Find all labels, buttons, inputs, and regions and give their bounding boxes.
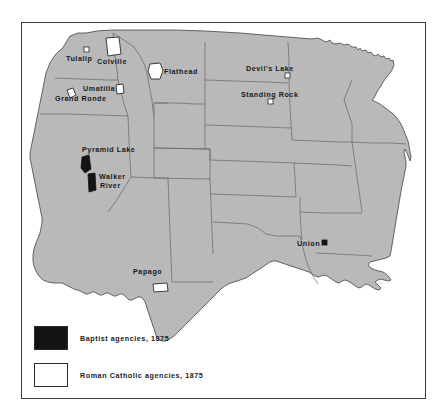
legend-swatch-baptist <box>34 326 68 350</box>
legend-label-catholic: Roman Catholic agencies, 1875 <box>80 371 203 380</box>
label-tulalip: Tulalip <box>66 55 92 63</box>
marker-walker-river[interactable] <box>88 173 96 192</box>
label-umatilla: Umatilla <box>83 85 115 93</box>
legend-label-baptist: Baptist agencies, 1875 <box>80 334 169 343</box>
label-pyramid-lake: Pyramid Lake <box>82 146 135 154</box>
label-walker-river-line2: River <box>100 182 121 190</box>
map-page: Tulalip Colville Flathead Umatilla Grand… <box>0 0 445 417</box>
marker-umatilla[interactable] <box>116 84 124 94</box>
label-union: Union <box>297 240 320 248</box>
marker-colville[interactable] <box>106 37 121 56</box>
map-landmass <box>30 30 411 341</box>
marker-flathead[interactable] <box>148 63 163 79</box>
marker-pyramid-lake[interactable] <box>81 155 91 173</box>
marker-tulalip[interactable] <box>84 47 89 52</box>
label-standing-rock: Standing Rock <box>241 91 298 99</box>
label-colville: Colville <box>97 58 127 66</box>
marker-papago[interactable] <box>153 283 168 292</box>
us-outline <box>30 30 411 341</box>
marker-devils-lake[interactable] <box>285 73 290 78</box>
label-papago: Papago <box>133 268 162 276</box>
marker-union[interactable] <box>322 240 327 245</box>
legend-swatch-catholic <box>34 363 68 387</box>
label-grand-ronde: Grand Ronde <box>55 95 107 103</box>
label-devils-lake: Devil's Lake <box>246 65 294 73</box>
label-flathead: Flathead <box>164 68 198 76</box>
marker-standing-rock[interactable] <box>268 99 273 104</box>
